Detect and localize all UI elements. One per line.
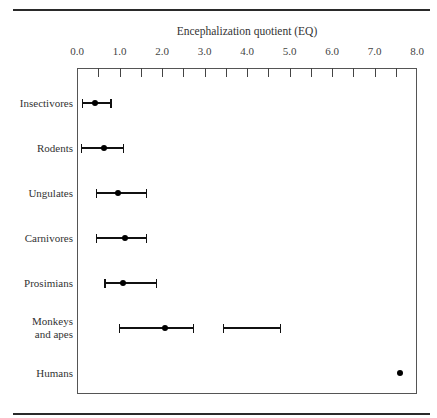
x-tick-label: 7.0 — [368, 45, 382, 57]
x-tick-label: 3.0 — [198, 45, 212, 57]
range-cap — [156, 279, 157, 288]
x-tick-label: 1.0 — [113, 45, 127, 57]
range-cap — [96, 234, 97, 243]
range-bar — [105, 282, 156, 284]
x-tick-mark — [205, 68, 206, 77]
mean-dot — [397, 370, 403, 376]
x-tick-mark — [396, 68, 397, 77]
x-tick-label: 4.0 — [240, 45, 254, 57]
x-tick-mark — [353, 68, 354, 77]
range-bar — [224, 327, 281, 329]
x-tick-mark — [120, 68, 121, 77]
x-tick-mark — [162, 68, 163, 77]
row-label: Humans — [36, 367, 73, 380]
range-cap — [223, 324, 224, 333]
x-tick-mark — [183, 68, 184, 77]
range-cap — [119, 324, 120, 333]
x-tick-label: 6.0 — [325, 45, 339, 57]
x-tick-mark — [332, 68, 333, 77]
x-tick-label: 5.0 — [283, 45, 297, 57]
x-tick-mark — [311, 68, 312, 77]
row-label: Insectivores — [20, 97, 73, 110]
x-tick-label: 0.0 — [70, 45, 84, 57]
row-label: Prosimians — [24, 277, 73, 290]
x-tick-label: 2.0 — [155, 45, 169, 57]
mean-dot — [122, 235, 128, 241]
mean-dot — [120, 280, 126, 286]
x-axis-title: Encephalization quotient (EQ) — [77, 25, 417, 37]
row-label: Monkeysand apes — [32, 315, 73, 341]
range-cap — [110, 99, 111, 108]
mean-dot — [115, 190, 121, 196]
top-rule — [13, 9, 430, 11]
row-label: Ungulates — [28, 187, 73, 200]
bottom-rule — [13, 413, 430, 415]
range-cap — [146, 189, 147, 198]
x-tick-label: 8.0 — [410, 45, 424, 57]
x-tick-mark — [98, 68, 99, 77]
range-cap — [82, 99, 83, 108]
x-tick-mark — [290, 68, 291, 77]
range-cap — [146, 234, 147, 243]
x-tick-mark — [375, 68, 376, 77]
range-bar — [96, 192, 147, 194]
range-bar — [120, 327, 194, 329]
row-label: Carnivores — [25, 232, 73, 245]
range-cap — [81, 144, 82, 153]
range-cap — [96, 189, 97, 198]
x-tick-mark — [226, 68, 227, 77]
plot-area — [77, 68, 417, 394]
x-tick-mark — [141, 68, 142, 77]
mean-dot — [162, 325, 168, 331]
range-cap — [104, 279, 105, 288]
x-tick-mark — [247, 68, 248, 77]
range-cap — [193, 324, 194, 333]
mean-dot — [92, 100, 98, 106]
range-cap — [123, 144, 124, 153]
range-cap — [280, 324, 281, 333]
row-label: Rodents — [37, 142, 73, 155]
x-tick-mark — [268, 68, 269, 77]
mean-dot — [101, 145, 107, 151]
